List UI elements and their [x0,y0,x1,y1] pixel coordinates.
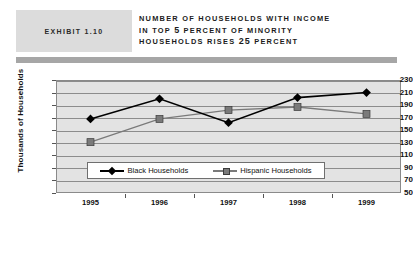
data-point-square[interactable] [225,107,232,114]
exhibit-badge: EXHIBIT 1.10 [16,10,132,52]
y-axis-tick-label: 190 [387,101,413,109]
page-title: NUMBER OF HOUSEHOLDS WITH INCOME IN TOP … [139,13,405,48]
x-axis-tick-label: 1997 [209,199,249,207]
y-axis-tick-mark [52,155,56,156]
y-axis-title: Thousands of Households [16,59,25,183]
exhibit-header: EXHIBIT 1.10 NUMBER OF HOUSEHOLDS WITH I… [0,0,413,62]
x-axis-tick-label: 1998 [278,199,318,207]
y-axis-tick-mark [52,168,56,169]
x-axis-tick-mark [125,194,126,198]
y-axis-tick-label: 70 [387,176,413,184]
y-axis-tick-label: 230 [387,76,413,84]
y-axis-tick-mark [52,105,56,106]
x-axis-tick-label: 1999 [347,199,387,207]
data-point-diamond[interactable] [362,88,371,97]
y-axis-tick-mark [52,80,56,81]
x-axis-tick-mark [194,194,195,198]
y-axis-tick-label: 90 [387,164,413,172]
header-divider [16,57,397,63]
data-point-diamond[interactable] [293,93,302,102]
exhibit-label: EXHIBIT 1.10 [45,28,104,35]
y-axis-tick-label: 110 [387,151,413,159]
title-line-2: IN TOP 5 PERCENT OF MINORITY [139,25,405,37]
diamond-marker-icon [100,166,124,175]
y-axis-tick-label: 210 [387,89,413,97]
chart-legend: Black Households Hispanic Households [87,162,325,179]
legend-label-hispanic-households: Hispanic Households [240,166,311,175]
data-point-square[interactable] [156,115,163,122]
data-point-diamond[interactable] [86,115,95,124]
y-axis-tick-mark [52,118,56,119]
y-axis-tick-label: 130 [387,139,413,147]
title-line-3: HOUSEHOLDS RISES 25 PERCENT [139,36,405,48]
legend-item-hispanic-households[interactable]: Hispanic Households [213,166,311,175]
y-axis-tick-mark [52,93,56,94]
y-axis-tick-label: 50 [387,189,413,197]
x-axis-tick-mark [263,194,264,198]
data-point-diamond[interactable] [155,94,164,103]
legend-item-black-households[interactable]: Black Households [100,166,188,175]
y-axis-tick-mark [52,130,56,131]
y-axis-tick-mark [52,193,56,194]
square-marker-icon [213,166,237,175]
y-axis-tick-mark [52,143,56,144]
data-point-square[interactable] [87,139,94,146]
title-line-1: NUMBER OF HOUSEHOLDS WITH INCOME [139,13,405,25]
x-axis-tick-label: 1996 [140,199,180,207]
y-axis-tick-mark [52,180,56,181]
legend-label-black-households: Black Households [127,166,188,175]
x-axis-tick-mark [332,194,333,198]
data-point-diamond[interactable] [224,118,233,127]
x-axis-tick-label: 1995 [71,199,111,207]
data-point-square[interactable] [363,110,370,117]
y-axis-tick-label: 170 [387,114,413,122]
data-point-square[interactable] [294,103,301,110]
y-axis-tick-label: 150 [387,126,413,134]
